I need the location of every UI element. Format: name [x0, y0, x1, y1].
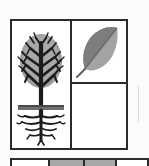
grid-cell-leaf[interactable] [72, 21, 126, 84]
swatch-cell[interactable] [117, 160, 147, 166]
grid-cell-blank[interactable] [72, 84, 126, 148]
swatch-cell[interactable] [50, 160, 85, 166]
swatch-cell[interactable] [12, 160, 50, 166]
page-edge-rule [138, 86, 139, 122]
broadleaf-icon [72, 21, 124, 82]
tree-with-roots-icon [12, 21, 70, 148]
icon-grid [10, 19, 128, 150]
grid-cell-tree[interactable] [12, 21, 72, 148]
swatch-cell[interactable] [85, 160, 117, 166]
swatch-strip [10, 158, 149, 166]
